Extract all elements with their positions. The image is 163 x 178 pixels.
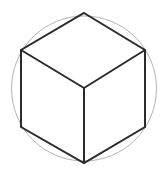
figure-background	[0, 0, 163, 178]
cube-in-circle-figure	[0, 0, 163, 178]
